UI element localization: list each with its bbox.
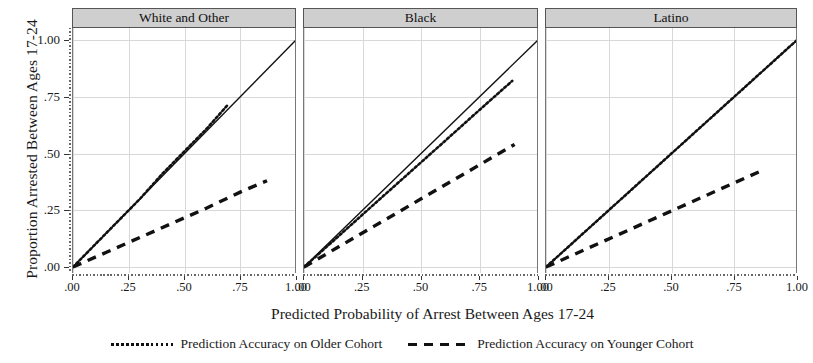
y-axis-tick-label: 1.00	[18, 32, 60, 48]
series-layer	[73, 28, 296, 273]
panel-title-strip: White and Other	[72, 8, 296, 28]
x-axis-tick-label: .50	[164, 280, 204, 295]
legend-label-younger: Prediction Accuracy on Younger Cohort	[477, 336, 693, 352]
series-line-dashed	[304, 144, 515, 267]
y-axis-tick-label: .25	[18, 202, 60, 218]
legend-item-older: Prediction Accuracy on Older Cohort	[111, 336, 382, 352]
x-axis-tick-label: .25	[108, 280, 148, 295]
series-layer	[546, 28, 797, 273]
x-axis-tick-label: .75	[220, 280, 260, 295]
y-axis-tick-label: .50	[18, 146, 60, 162]
x-axis-tick-label: .00	[283, 280, 323, 295]
x-axis-tick-label: .00	[52, 280, 92, 295]
y-axis-spine	[69, 28, 71, 271]
series-line-dashed	[546, 172, 759, 267]
series-line-dashed	[73, 181, 267, 267]
x-axis-tick-label: 1.00	[777, 280, 813, 295]
legend-label-older: Prediction Accuracy on Older Cohort	[180, 336, 382, 352]
y-axis-tick-label: .00	[18, 259, 60, 275]
series-line-dotted	[73, 106, 227, 267]
y-axis-tick-label: .75	[18, 89, 60, 105]
x-axis-tick-label: .50	[401, 280, 441, 295]
x-axis-tick-label: .75	[714, 280, 754, 295]
series-line-dotted	[304, 81, 512, 267]
x-axis-tick-label: .50	[651, 280, 691, 295]
panel-plot-area	[545, 28, 797, 273]
panel-title: White and Other	[139, 10, 229, 26]
x-axis-tick-label: .25	[342, 280, 382, 295]
panel-plot-area	[72, 28, 296, 273]
series-line-dotted	[546, 40, 797, 267]
panel-title: Latino	[653, 10, 688, 26]
legend: Prediction Accuracy on Older Cohort Pred…	[0, 336, 805, 352]
panel-title-strip: Latino	[545, 8, 797, 28]
series-line-solid	[304, 40, 538, 267]
legend-item-younger: Prediction Accuracy on Younger Cohort	[408, 336, 693, 352]
x-axis-tick-label: .75	[459, 280, 499, 295]
x-axis-tick-label: .25	[588, 280, 628, 295]
x-axis-tick-label: .00	[525, 280, 565, 295]
series-layer	[304, 28, 538, 273]
panel-title-strip: Black	[303, 8, 538, 28]
dashed-line-swatch-icon	[408, 343, 470, 346]
x-axis-title: Predicted Probability of Arrest Between …	[60, 305, 805, 323]
dotted-line-swatch-icon	[111, 343, 173, 346]
panel-title: Black	[405, 10, 437, 26]
panel-plot-area	[303, 28, 538, 273]
